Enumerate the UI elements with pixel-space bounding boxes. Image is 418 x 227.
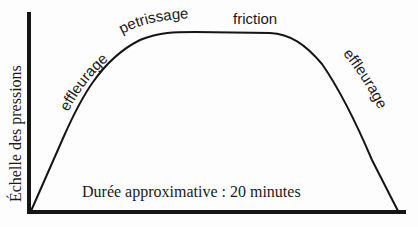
phase-label-effleurage-rise: effleurage xyxy=(56,50,111,114)
chart-canvas: effleurage petrissage friction effleurag… xyxy=(0,0,418,227)
y-axis-label: Échelle des pressions xyxy=(6,65,25,202)
phase-label-friction: friction xyxy=(233,10,277,27)
duration-annotation: Durée approximative : 20 minutes xyxy=(82,183,301,201)
pressure-chart: effleurage petrissage friction effleurag… xyxy=(0,0,418,227)
phase-label-effleurage-fall: effleurage xyxy=(341,45,392,111)
